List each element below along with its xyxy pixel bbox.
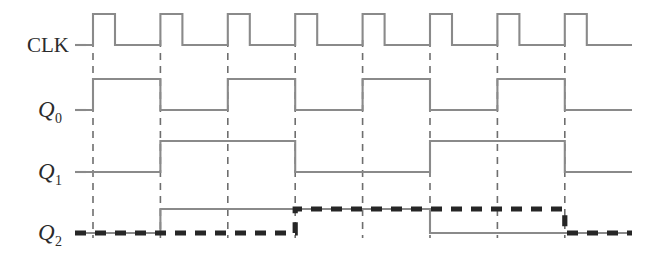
label-q0-base: Q: [38, 97, 55, 122]
waveform-q1: [75, 141, 632, 172]
label-q2-base: Q: [38, 220, 55, 245]
timing-diagram-figure: CLK Q 0 Q 1 Q 2: [0, 0, 662, 263]
label-q1: Q 1: [38, 159, 62, 188]
q1-trace: [75, 141, 632, 172]
label-clk: CLK: [27, 33, 69, 57]
label-q0: Q 0: [38, 97, 62, 126]
label-q2-subscript: 2: [55, 234, 62, 249]
label-q1-subscript: 1: [55, 173, 62, 188]
q0-trace: [75, 79, 632, 110]
waveform-q0: [75, 79, 632, 110]
trace-start-ticks: [75, 45, 86, 172]
q2-highlight-trace: [75, 209, 632, 233]
waveform-q2-highlight: [75, 209, 632, 233]
label-q2: Q 2: [38, 220, 62, 249]
label-q1-base: Q: [38, 159, 55, 184]
timing-diagram-canvas: CLK Q 0 Q 1 Q 2: [0, 0, 662, 263]
waveform-clk: [75, 14, 632, 45]
label-q0-subscript: 0: [55, 111, 62, 126]
waveform-q2: [75, 209, 632, 233]
clk-trace: [75, 14, 632, 45]
q2-trace: [75, 209, 632, 233]
